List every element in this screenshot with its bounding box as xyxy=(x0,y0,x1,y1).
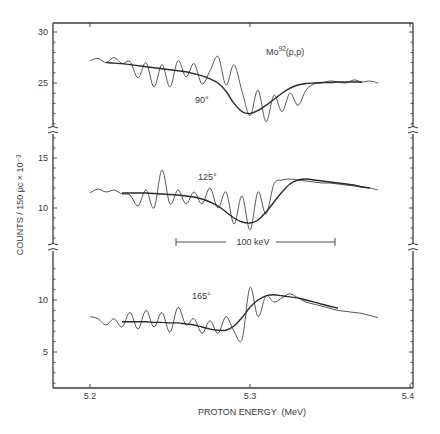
y-tick-label-25: 25 xyxy=(38,78,48,88)
break-mark-left-2a xyxy=(48,244,58,246)
title-base: Mo xyxy=(266,47,279,57)
scale-bar-100kev: 100 keV xyxy=(176,237,335,247)
chart-title: Mo92(p,p) xyxy=(266,45,304,57)
axis-ticks xyxy=(53,23,413,388)
break-mark-left-1b xyxy=(48,132,58,134)
y-tick-label-10-mid: 10 xyxy=(38,203,48,213)
y-axis-label: COUNTS / 150 μc × 10⁻³ xyxy=(15,155,25,256)
y-tick-label-5: 5 xyxy=(43,347,48,357)
break-mark-right-1a xyxy=(408,127,418,129)
angle-label-90: 90° xyxy=(195,95,209,105)
scale-bar-label: 100 keV xyxy=(236,237,269,247)
fit-curve-90deg xyxy=(106,63,362,114)
break-mark-right-2a xyxy=(408,244,418,246)
spectra-series xyxy=(90,56,378,342)
fit-curve-165deg xyxy=(122,295,338,331)
y-tick-label-30: 30 xyxy=(38,27,48,37)
data-curve-165deg xyxy=(90,287,378,342)
x-axis-label: PROTON ENERGY (MeV) xyxy=(198,407,306,417)
spectrum-figure: 5.2 5.3 5.4 30 25 15 10 10 5 PROTON ENER… xyxy=(0,0,440,434)
break-mark-left-1a xyxy=(48,127,58,129)
x-tick-label-5-3: 5.3 xyxy=(244,391,257,401)
y-tick-labels: 30 25 15 10 10 5 xyxy=(38,27,48,357)
title-suffix: (p,p) xyxy=(286,47,305,57)
break-mark-left-2b xyxy=(48,249,58,251)
break-mark-right-1b xyxy=(408,132,418,134)
plot-frame xyxy=(53,23,413,388)
x-tick-label-5-2: 5.2 xyxy=(84,391,97,401)
x-tick-labels: 5.2 5.3 5.4 xyxy=(84,391,415,401)
data-curve-90deg xyxy=(90,56,378,122)
y-tick-label-10-bottom: 10 xyxy=(38,295,48,305)
axis-break-marks xyxy=(48,127,418,251)
data-curve-125deg xyxy=(90,170,378,230)
x-tick-label-5-4: 5.4 xyxy=(402,391,415,401)
break-mark-right-2b xyxy=(408,249,418,251)
y-tick-label-15: 15 xyxy=(38,153,48,163)
angle-label-165: 165° xyxy=(192,291,211,301)
angle-label-125: 125° xyxy=(198,172,217,182)
